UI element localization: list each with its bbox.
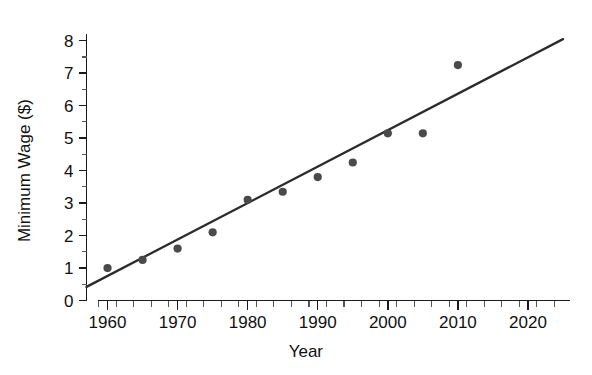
data-point bbox=[173, 244, 181, 252]
data-point bbox=[454, 61, 462, 69]
x-tick-label: 2000 bbox=[369, 313, 407, 332]
y-tick-label: 3 bbox=[64, 194, 73, 213]
scatter-plot: 0123456781960197019801990200020102020Min… bbox=[0, 0, 592, 375]
x-tick-label: 2010 bbox=[439, 313, 477, 332]
data-point bbox=[314, 173, 322, 181]
data-point bbox=[279, 188, 287, 196]
x-tick-label: 2020 bbox=[509, 313, 547, 332]
data-point bbox=[349, 158, 357, 166]
y-tick-label: 6 bbox=[64, 97, 73, 116]
y-tick-label: 4 bbox=[64, 162, 73, 181]
x-axis-title: Year bbox=[289, 342, 324, 361]
x-tick-label: 1960 bbox=[89, 313, 127, 332]
trend-line bbox=[87, 39, 563, 287]
data-point bbox=[103, 264, 111, 272]
y-tick-label: 5 bbox=[64, 129, 73, 148]
data-point bbox=[419, 129, 427, 137]
y-tick-label: 7 bbox=[64, 64, 73, 83]
x-tick-label: 1990 bbox=[299, 313, 337, 332]
y-tick-label: 2 bbox=[64, 227, 73, 246]
y-tick-label: 8 bbox=[64, 32, 73, 51]
y-tick-label: 1 bbox=[64, 259, 73, 278]
data-point bbox=[209, 228, 217, 236]
y-axis-title: Minimum Wage ($) bbox=[15, 99, 34, 242]
y-tick-label: 0 bbox=[64, 292, 73, 311]
data-point bbox=[244, 196, 252, 204]
x-tick-label: 1970 bbox=[159, 313, 197, 332]
data-point bbox=[384, 129, 392, 137]
data-point bbox=[138, 256, 146, 264]
chart-container: 0123456781960197019801990200020102020Min… bbox=[0, 0, 592, 375]
x-tick-label: 1980 bbox=[229, 313, 267, 332]
